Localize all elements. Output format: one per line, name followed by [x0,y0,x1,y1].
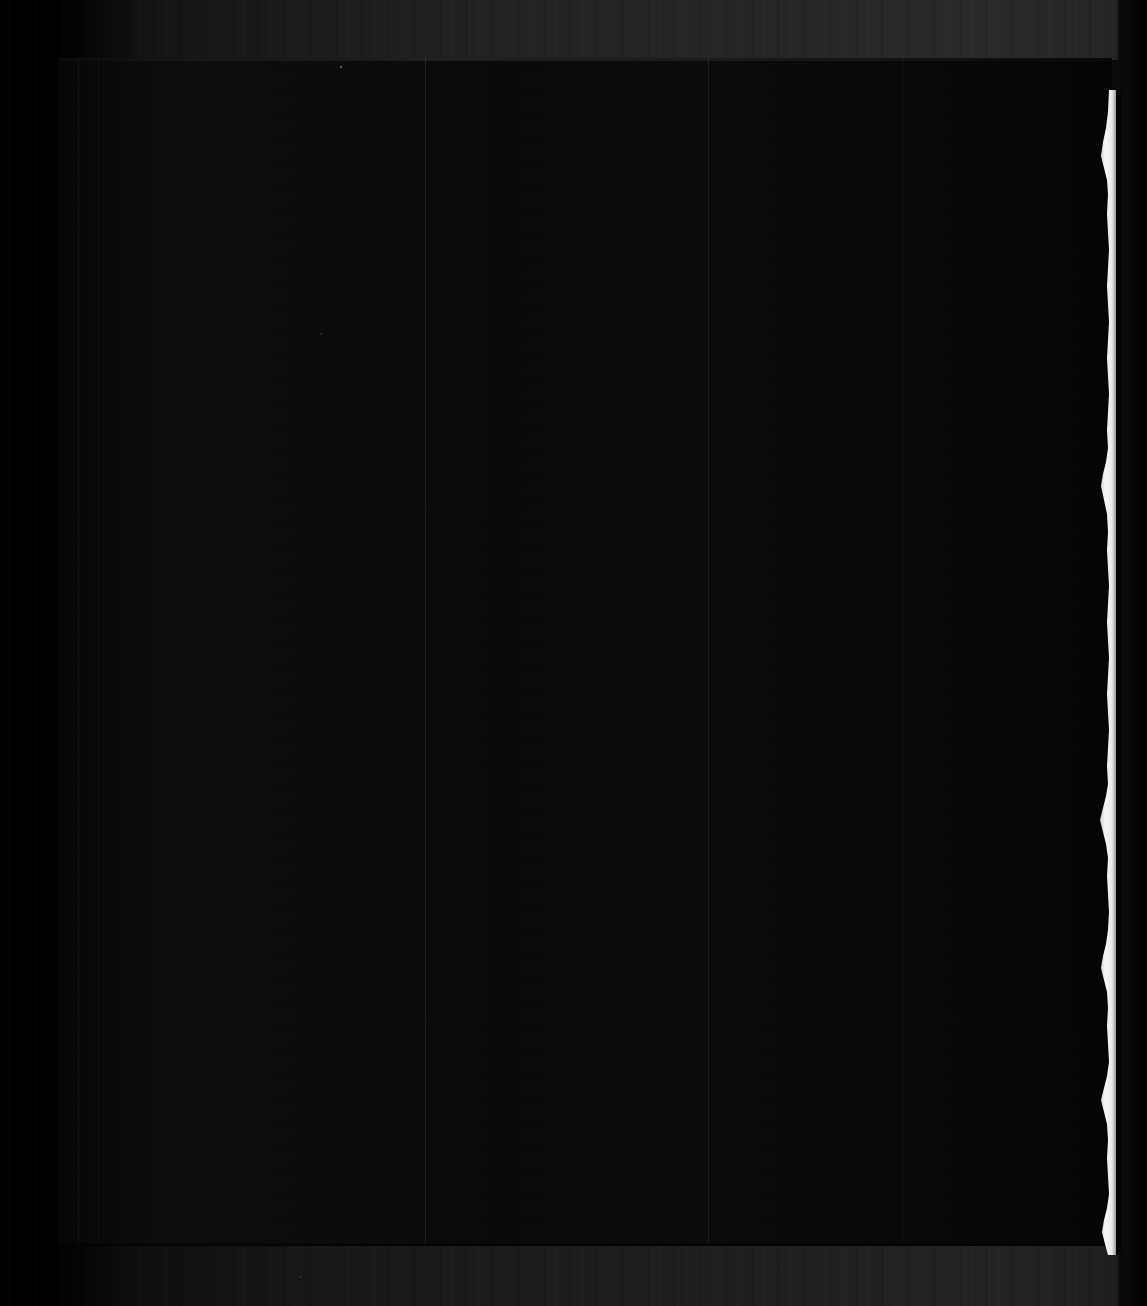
scanner-bed-bottom [0,1245,1147,1306]
page-body [58,58,1112,1246]
scanned-page-canvas [0,0,1147,1306]
scanner-void-right [1118,0,1147,1306]
page-bottom-shadow [58,1242,1112,1246]
page-top-highlight [58,58,1112,61]
scanner-bed-top [0,0,1147,60]
page-tone-gradient [58,58,1112,1246]
scanner-void-left [0,0,58,1306]
